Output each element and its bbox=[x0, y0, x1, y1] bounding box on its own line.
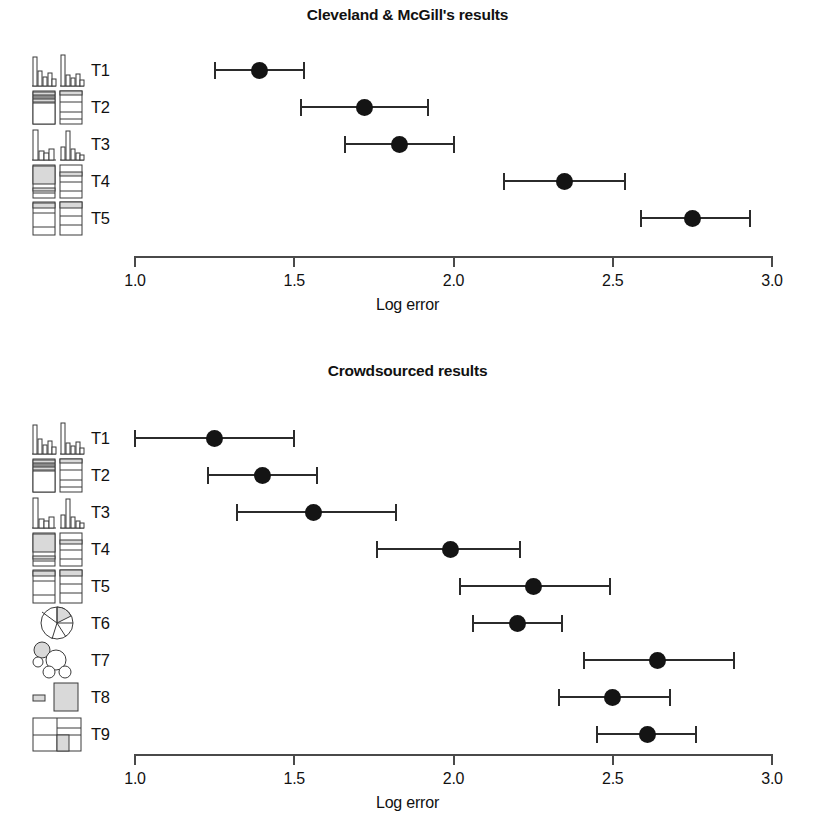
row-label-t4: T4 bbox=[91, 541, 110, 558]
data-point-marker bbox=[305, 504, 322, 521]
error-bar-cap-high bbox=[669, 689, 671, 706]
data-point-marker bbox=[356, 99, 373, 116]
row-label-t8: T8 bbox=[91, 689, 110, 706]
bubble-chart-icon bbox=[30, 641, 86, 679]
error-bar-line bbox=[237, 511, 396, 513]
axis-tick-label: 2.5 bbox=[602, 770, 623, 788]
error-bar-line bbox=[460, 585, 610, 587]
stacked-bar-wide-icon bbox=[30, 199, 86, 237]
stacked-bar-pair-icon bbox=[30, 456, 86, 494]
chart-row: T8 bbox=[0, 679, 815, 715]
error-bar-line bbox=[345, 143, 453, 145]
chart-row: T1 bbox=[0, 52, 815, 88]
axis-tick-label: 2.5 bbox=[602, 272, 623, 290]
error-bar-cap-low bbox=[300, 99, 302, 116]
chart-row: T7 bbox=[0, 642, 815, 678]
row-label-t4: T4 bbox=[91, 173, 110, 190]
plot-area-top: T1T2T3T4T5 bbox=[0, 24, 815, 274]
error-bar-line bbox=[215, 69, 304, 71]
axis-tick bbox=[453, 256, 455, 267]
row-label-t6: T6 bbox=[91, 615, 110, 632]
x-axis-title-top: Log error bbox=[0, 296, 815, 314]
data-point-marker bbox=[391, 136, 408, 153]
axis-tick bbox=[293, 754, 295, 765]
pie-chart-icon bbox=[30, 604, 86, 642]
data-point-marker bbox=[251, 62, 268, 79]
error-bar-line bbox=[559, 696, 670, 698]
error-bar-group bbox=[0, 642, 815, 678]
axis-tick-label: 1.5 bbox=[284, 770, 305, 788]
x-axis-title-bottom: Log error bbox=[0, 794, 815, 812]
data-point-marker bbox=[254, 467, 271, 484]
error-bar-line bbox=[135, 437, 294, 439]
data-point-marker bbox=[604, 689, 621, 706]
error-bar-cap-low bbox=[214, 62, 216, 79]
x-axis-top: Log error 1.01.52.02.53.0 bbox=[0, 256, 815, 320]
chart-panel-cleveland-mcgill: Cleveland & McGill's results T1T2T3T4T5 … bbox=[0, 0, 815, 350]
chart-row: T9 bbox=[0, 716, 815, 752]
error-bar-group bbox=[0, 716, 815, 752]
chart-row: T5 bbox=[0, 568, 815, 604]
row-label-t5: T5 bbox=[91, 210, 110, 227]
data-point-marker bbox=[639, 726, 656, 743]
error-bar-cap-low bbox=[640, 210, 642, 227]
data-point-marker bbox=[649, 652, 666, 669]
axis-tick bbox=[612, 754, 614, 765]
error-bar-cap-high bbox=[427, 99, 429, 116]
chart-row: T2 bbox=[0, 89, 815, 125]
row-label-t2: T2 bbox=[91, 99, 110, 116]
error-bar-cap-low bbox=[583, 652, 585, 669]
axis-tick-label: 2.0 bbox=[443, 272, 464, 290]
row-label-t1: T1 bbox=[91, 62, 110, 79]
error-bar-line bbox=[504, 180, 625, 182]
grouped-bar-chart-icon bbox=[30, 51, 86, 89]
chart-title-top: Cleveland & McGill's results bbox=[0, 0, 815, 24]
chart-row: T6 bbox=[0, 605, 815, 641]
chart-row: T5 bbox=[0, 200, 815, 236]
data-point-marker bbox=[206, 430, 223, 447]
error-bar-group bbox=[0, 457, 815, 493]
error-bar-cap-high bbox=[749, 210, 751, 227]
chart-title-bottom: Crowdsourced results bbox=[0, 350, 815, 380]
error-bar-line bbox=[597, 733, 696, 735]
data-point-marker bbox=[684, 210, 701, 227]
error-bar-cap-high bbox=[453, 136, 455, 153]
axis-tick bbox=[612, 256, 614, 267]
error-bar-cap-high bbox=[293, 430, 295, 447]
error-bar-cap-low bbox=[134, 430, 136, 447]
error-bar-group bbox=[0, 126, 815, 162]
row-label-t3: T3 bbox=[91, 136, 110, 153]
chart-row: T3 bbox=[0, 494, 815, 530]
grouped-bar-chart-icon bbox=[30, 419, 86, 457]
error-bar-group bbox=[0, 52, 815, 88]
error-bar-line bbox=[641, 217, 749, 219]
error-bar-line bbox=[473, 622, 562, 624]
plot-area-bottom: T1T2T3T4T5T6T7T8T9 bbox=[0, 380, 815, 760]
error-bar-cap-high bbox=[695, 726, 697, 743]
chart-row: T1 bbox=[0, 420, 815, 456]
error-bar-cap-high bbox=[733, 652, 735, 669]
error-bar-group bbox=[0, 420, 815, 456]
error-bar-group bbox=[0, 605, 815, 641]
error-bar-cap-low bbox=[558, 689, 560, 706]
error-bar-cap-high bbox=[395, 504, 397, 521]
data-point-marker bbox=[442, 541, 459, 558]
row-label-t5: T5 bbox=[91, 578, 110, 595]
error-bar-cap-low bbox=[344, 136, 346, 153]
axis-tick bbox=[293, 256, 295, 267]
data-point-marker bbox=[525, 578, 542, 595]
error-bar-group bbox=[0, 568, 815, 604]
split-bar-chart-icon bbox=[30, 493, 86, 531]
stacked-bar-pair-icon bbox=[30, 88, 86, 126]
data-point-marker bbox=[509, 615, 526, 632]
error-bar-group bbox=[0, 163, 815, 199]
treemap-icon bbox=[30, 715, 86, 753]
chart-row: T4 bbox=[0, 531, 815, 567]
axis-tick-label: 1.0 bbox=[124, 770, 145, 788]
rectangle-area-icon bbox=[30, 678, 86, 716]
chart-panel-crowdsourced: Crowdsourced results T1T2T3T4T5T6T7T8T9 … bbox=[0, 350, 815, 828]
error-bar-line bbox=[377, 548, 520, 550]
error-bar-group bbox=[0, 200, 815, 236]
chart-row: T4 bbox=[0, 163, 815, 199]
error-bar-cap-low bbox=[376, 541, 378, 558]
